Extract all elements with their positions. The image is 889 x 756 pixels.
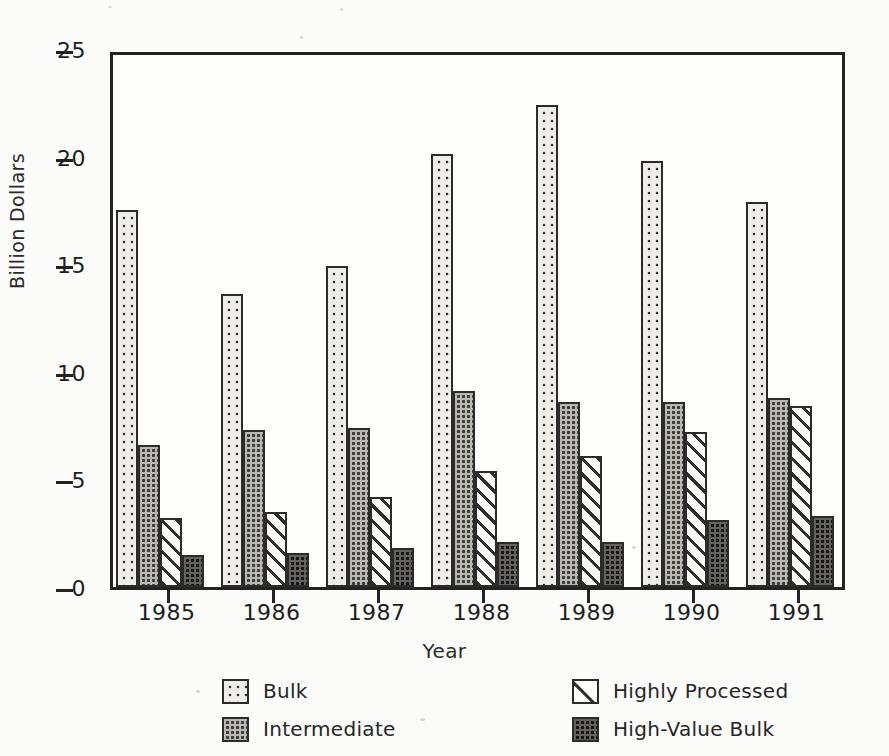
bar[interactable]	[431, 154, 453, 587]
x-tick-label: 1989	[532, 600, 642, 625]
x-tick-label: 1986	[217, 600, 327, 625]
bar[interactable]	[265, 512, 287, 587]
legend-swatch-icon	[222, 717, 249, 742]
bar[interactable]	[370, 497, 392, 587]
x-tick-label: 1988	[427, 600, 537, 625]
bar[interactable]	[602, 542, 624, 587]
bar[interactable]	[497, 542, 519, 587]
bar[interactable]	[392, 548, 414, 587]
bar[interactable]	[746, 202, 768, 587]
bar[interactable]	[287, 553, 309, 587]
bar[interactable]	[536, 105, 558, 587]
bar-group-bars	[431, 55, 519, 587]
bar-group	[326, 55, 414, 587]
x-axis-labels: 1985198619871988198919901991	[110, 600, 845, 634]
y-tick-label: 20	[40, 146, 86, 171]
bar-group	[536, 55, 624, 587]
y-tick-label: 0	[40, 576, 86, 601]
legend-swatch-icon	[222, 679, 249, 704]
scan-speck	[632, 546, 636, 549]
bar[interactable]	[348, 428, 370, 587]
plot-area	[110, 52, 845, 590]
bar-group-bars	[641, 55, 729, 587]
legend-item[interactable]: Highly Processed	[572, 672, 788, 710]
bar-group-bars	[116, 55, 204, 587]
y-axis: 0510152025	[56, 52, 110, 590]
bar-group-bars	[326, 55, 414, 587]
legend-label: Highly Processed	[613, 679, 788, 703]
legend-label: Intermediate	[263, 717, 396, 741]
bar[interactable]	[663, 402, 685, 587]
bar[interactable]	[138, 445, 160, 587]
bar[interactable]	[641, 161, 663, 587]
bar[interactable]	[453, 391, 475, 587]
bar-group	[116, 55, 204, 587]
bar[interactable]	[812, 516, 834, 587]
bar-group-bars	[221, 55, 309, 587]
bars-container	[113, 55, 842, 587]
bar[interactable]	[685, 432, 707, 587]
legend-swatch-icon	[572, 717, 599, 742]
scan-speck	[340, 8, 343, 11]
bar-group-bars	[746, 55, 834, 587]
chart-legend: BulkIntermediateHighly ProcessedHigh-Val…	[0, 672, 889, 756]
bar-group	[431, 55, 519, 587]
bar[interactable]	[790, 406, 812, 587]
legend-item[interactable]: Bulk	[222, 672, 396, 710]
bar-group	[221, 55, 309, 587]
y-tick-label: 5	[40, 468, 86, 493]
bar[interactable]	[475, 471, 497, 587]
scan-speck	[108, 6, 112, 8]
chart-page: Billion Dollars 0510152025 1985198619871…	[0, 0, 889, 756]
bar[interactable]	[221, 294, 243, 587]
bar[interactable]	[326, 266, 348, 587]
bar[interactable]	[182, 555, 204, 587]
bar-group	[641, 55, 729, 587]
scan-speck	[420, 718, 425, 721]
legend-label: Bulk	[263, 679, 308, 703]
x-tick-label: 1991	[742, 600, 852, 625]
y-axis-title: Billion Dollars	[6, 39, 40, 289]
legend-item[interactable]: Intermediate	[222, 710, 396, 748]
bar[interactable]	[707, 520, 729, 587]
x-tick-label: 1990	[637, 600, 747, 625]
legend-swatch-icon	[572, 679, 599, 704]
x-tick-label: 1987	[322, 600, 432, 625]
legend-item[interactable]: High-Value Bulk	[572, 710, 788, 748]
bar[interactable]	[116, 210, 138, 587]
scan-speck	[300, 36, 303, 39]
legend-column: Highly ProcessedHigh-Value Bulk	[572, 672, 788, 748]
bar[interactable]	[580, 456, 602, 587]
y-tick-label: 15	[40, 253, 86, 278]
bar-group	[746, 55, 834, 587]
legend-column: BulkIntermediate	[222, 672, 396, 748]
y-tick-label: 10	[40, 361, 86, 386]
bar[interactable]	[558, 402, 580, 587]
legend-label: High-Value Bulk	[613, 717, 774, 741]
bar-group-bars	[536, 55, 624, 587]
y-tick-label: 25	[40, 38, 86, 63]
bar[interactable]	[243, 430, 265, 587]
x-axis-title: Year	[0, 639, 889, 663]
scan-speck	[196, 690, 200, 693]
bar[interactable]	[768, 398, 790, 587]
bar[interactable]	[160, 518, 182, 587]
x-tick-label: 1985	[112, 600, 222, 625]
